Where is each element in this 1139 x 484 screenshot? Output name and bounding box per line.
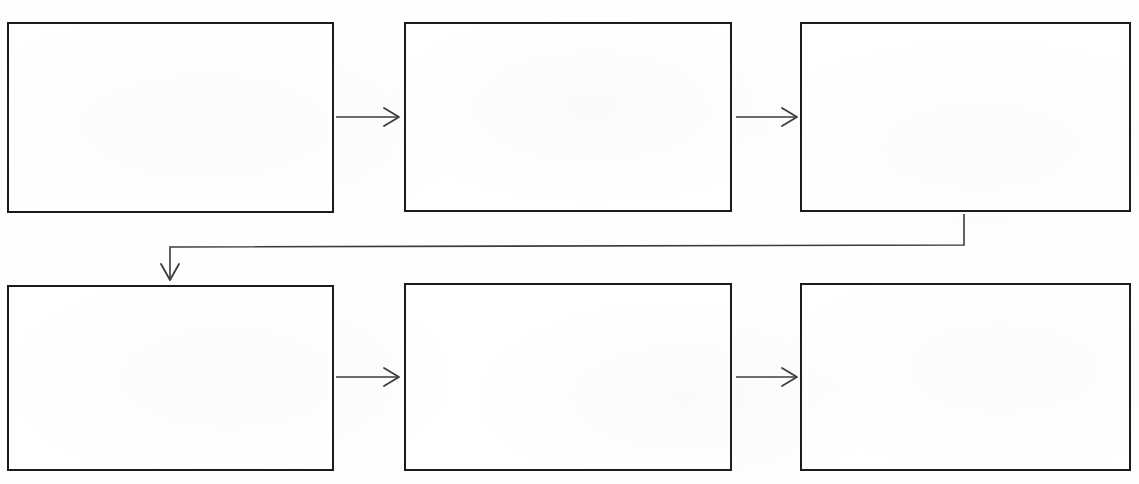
node-label	[802, 24, 1129, 210]
flowchart-node-1[interactable]	[7, 22, 334, 213]
node-label	[9, 287, 332, 469]
flowchart-canvas	[0, 0, 1139, 484]
node-label	[9, 24, 332, 211]
flowchart-node-3[interactable]	[800, 22, 1131, 212]
flowchart-node-5[interactable]	[404, 283, 732, 471]
flowchart-node-4[interactable]	[7, 285, 334, 471]
node-label	[406, 285, 730, 469]
edge-box1-box2	[336, 108, 399, 126]
edge-box5-box6	[736, 368, 797, 386]
flowchart-node-6[interactable]	[800, 283, 1131, 471]
edge-box3-box4	[161, 214, 964, 280]
node-label	[802, 285, 1129, 469]
edge-line	[170, 214, 964, 278]
flowchart-node-2[interactable]	[404, 22, 732, 212]
edge-box4-box5	[336, 368, 399, 386]
edge-box2-box3	[736, 108, 797, 126]
node-label	[406, 24, 730, 210]
